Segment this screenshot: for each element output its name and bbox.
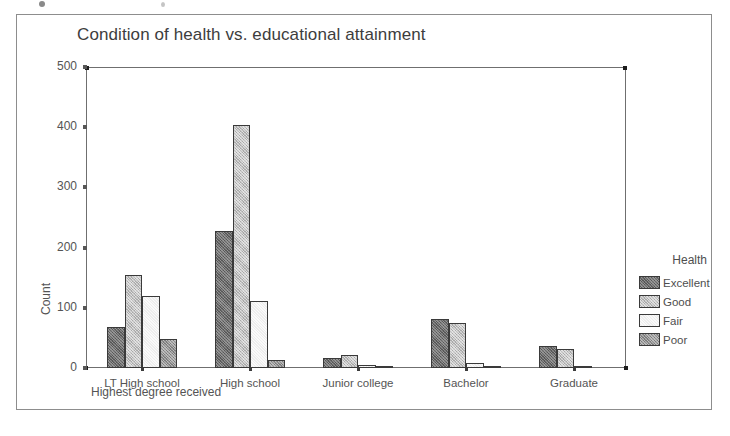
- legend: Health ExcellentGoodFairPoor: [639, 253, 709, 352]
- scan-artifact: [161, 2, 165, 7]
- bar-junior-college-excellent[interactable]: [323, 358, 341, 368]
- x-tick-label-high-school: High school: [220, 377, 280, 389]
- legend-item-fair[interactable]: Fair: [639, 314, 709, 327]
- bar-bachelor-poor[interactable]: [484, 366, 502, 368]
- corner-marker-top-right: [623, 66, 627, 70]
- bar-high-school-poor[interactable]: [268, 360, 286, 368]
- y-tick-mark: [83, 366, 87, 370]
- bar-junior-college-good[interactable]: [341, 355, 359, 368]
- legend-rows: ExcellentGoodFairPoor: [639, 276, 709, 346]
- bar-bachelor-excellent[interactable]: [431, 319, 449, 368]
- plot-top-border: [86, 67, 626, 68]
- figure-frame: Condition of health vs. educational atta…: [16, 14, 712, 410]
- legend-swatch-poor: [639, 333, 660, 346]
- bar-junior-college-fair[interactable]: [358, 365, 376, 368]
- y-tick-label: 300: [57, 179, 77, 193]
- legend-swatch-excellent: [639, 276, 660, 289]
- bar-lt-high-school-fair[interactable]: [142, 296, 160, 368]
- bar-lt-high-school-poor[interactable]: [160, 339, 178, 368]
- legend-swatch-fair: [639, 314, 660, 327]
- legend-title: Health: [639, 253, 709, 267]
- x-tick-label-lt-high-school: LT High school: [104, 377, 180, 389]
- bar-high-school-fair[interactable]: [250, 301, 268, 368]
- y-tick-mark: [83, 246, 87, 250]
- y-tick-label: 100: [57, 300, 77, 314]
- bar-bachelor-fair[interactable]: [466, 363, 484, 368]
- y-tick-mark: [83, 65, 87, 69]
- legend-label-excellent: Excellent: [663, 277, 710, 289]
- y-tick-mark: [83, 125, 87, 129]
- legend-item-excellent[interactable]: Excellent: [639, 276, 709, 289]
- y-tick-label: 400: [57, 119, 77, 133]
- legend-label-fair: Fair: [663, 315, 683, 327]
- y-tick-label: 200: [57, 240, 77, 254]
- legend-label-good: Good: [663, 296, 691, 308]
- bar-junior-college-poor[interactable]: [376, 366, 394, 368]
- x-tick-label-junior-college: Junior college: [323, 377, 394, 389]
- legend-item-poor[interactable]: Poor: [639, 333, 709, 346]
- bar-graduate-good[interactable]: [557, 349, 575, 368]
- y-tick-mark: [83, 306, 87, 310]
- bar-graduate-fair[interactable]: [574, 366, 592, 368]
- bar-bachelor-good[interactable]: [449, 323, 467, 368]
- legend-swatch-good: [639, 295, 660, 308]
- x-tick-label-bachelor: Bachelor: [443, 377, 488, 389]
- scan-artifact: [39, 1, 45, 7]
- corner-marker-bottom-right: [624, 366, 628, 370]
- bar-lt-high-school-good[interactable]: [125, 275, 143, 368]
- plot-right-border: [625, 67, 626, 368]
- bar-high-school-good[interactable]: [233, 125, 251, 368]
- bar-lt-high-school-excellent[interactable]: [107, 327, 125, 368]
- legend-label-poor: Poor: [663, 334, 687, 346]
- y-axis-line: [86, 67, 87, 368]
- x-tick-label-graduate: Graduate: [550, 377, 598, 389]
- y-tick-label: 0: [70, 360, 77, 374]
- chart-title: Condition of health vs. educational atta…: [77, 25, 426, 45]
- y-axis-label: Count: [39, 283, 53, 315]
- bar-graduate-excellent[interactable]: [539, 346, 557, 368]
- legend-item-good[interactable]: Good: [639, 295, 709, 308]
- y-tick-label: 500: [57, 59, 77, 73]
- bar-high-school-excellent[interactable]: [215, 231, 233, 368]
- y-tick-mark: [83, 185, 87, 189]
- plot-area: 0100200300400500 LT High schoolHigh scho…: [86, 67, 626, 368]
